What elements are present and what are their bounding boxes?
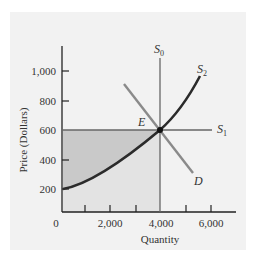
- x-axis-title: Quantity: [141, 233, 180, 245]
- y-tick-400: 400: [40, 154, 57, 166]
- equilibrium-point: [157, 127, 163, 133]
- y-tick-800: 800: [40, 95, 57, 107]
- y-axis-title: Price (Dollars): [17, 107, 30, 172]
- label-d: D: [193, 174, 203, 188]
- x-tick-0: 0: [53, 217, 59, 229]
- y-tick-1000: 1,000: [31, 65, 56, 77]
- label-e: E: [137, 115, 146, 129]
- y-tick-200: 200: [40, 183, 57, 195]
- supply-demand-chart: 1,000 800 600 400 200 0 2,000 4,000 6,00…: [0, 0, 256, 261]
- x-tick-2000: 2,000: [98, 217, 123, 229]
- x-tick-6000: 6,000: [199, 217, 224, 229]
- x-tick-4000: 4,000: [149, 217, 174, 229]
- y-tick-600: 600: [40, 124, 57, 136]
